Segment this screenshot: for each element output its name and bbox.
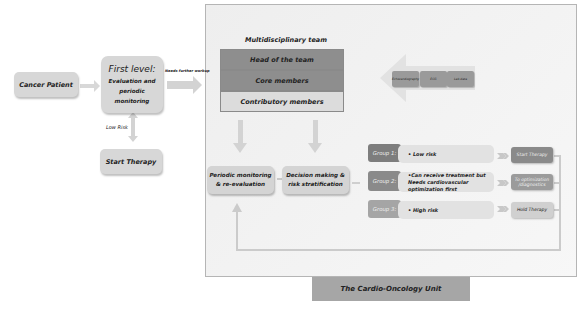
test-echocardiography: Echocardiography bbox=[392, 71, 419, 87]
group-2-outcome: To optimization /diagnostics bbox=[511, 174, 553, 190]
group-2-description: •Can receive treatment but Needs cardiov… bbox=[398, 172, 494, 192]
group-1-outcome: Start Therapy bbox=[511, 147, 553, 163]
team-row-contributory: Contributory members bbox=[220, 91, 344, 112]
group-1-tag: Group 1: bbox=[368, 144, 401, 162]
group-3-description: • High risk bbox=[398, 201, 494, 219]
first-level-subtitle: Evaluation and periodic monitoring bbox=[104, 76, 160, 106]
group-1-outcome-label: Start Therapy bbox=[517, 152, 548, 158]
team-row-head-label: Head of the team bbox=[250, 56, 314, 64]
start-therapy-box: Start Therapy bbox=[100, 149, 162, 174]
arrow-team-down-left bbox=[233, 120, 247, 153]
test-lab-data: Lab data bbox=[447, 71, 474, 87]
group-2-outcome-label: To optimization /diagnostics bbox=[511, 177, 553, 188]
test-ecg-label: ECG bbox=[430, 77, 436, 81]
team-title: Multidisciplinary team bbox=[245, 36, 365, 44]
decision-making-label: Decision making & risk stratification bbox=[282, 171, 349, 189]
team-row-core-label: Core members bbox=[255, 77, 308, 85]
test-ecg: ECG bbox=[420, 71, 447, 87]
low-risk-label: Low Risk bbox=[106, 124, 128, 130]
group-3-outcome-label: Hold Therapy bbox=[517, 207, 547, 213]
arrow-patient-to-first-level bbox=[80, 80, 100, 92]
arrow-needs-workup bbox=[167, 76, 202, 94]
decision-making-box: Decision making & risk stratification bbox=[282, 166, 349, 194]
chevrons bbox=[497, 153, 509, 212]
footer-title: The Cardio-Oncology Unit bbox=[341, 285, 442, 293]
periodic-monitoring-box: Periodic monitoring & re-evaluation bbox=[207, 166, 274, 194]
group-3-outcome: Hold Therapy bbox=[511, 202, 553, 218]
first-level-box: First level: Evaluation and periodic mon… bbox=[101, 56, 163, 113]
cardio-oncology-unit-label: The Cardio-Oncology Unit bbox=[312, 277, 470, 301]
group-2-description-label: •Can receive treatment but Needs cardiov… bbox=[408, 172, 494, 193]
team-row-contributory-label: Contributory members bbox=[240, 98, 323, 106]
periodic-monitoring-label: Periodic monitoring & re-evaluation bbox=[207, 171, 274, 189]
arrow-low-risk bbox=[128, 112, 138, 142]
group-3-tag-label: Group 3: bbox=[373, 206, 397, 212]
test-lab-data-label: Lab data bbox=[454, 77, 467, 81]
start-therapy-label: Start Therapy bbox=[106, 158, 157, 166]
team-row-head: Head of the team bbox=[220, 49, 344, 70]
first-level-title: First level: bbox=[109, 64, 156, 74]
group-3-description-label: • High risk bbox=[408, 207, 438, 214]
group-3-tag: Group 3: bbox=[368, 200, 401, 218]
arrow-team-down-right bbox=[308, 120, 322, 153]
group-1-description: • Low risk bbox=[398, 145, 494, 163]
group-1-description-label: • Low risk bbox=[408, 151, 436, 158]
cancer-patient-box: Cancer Patient bbox=[14, 72, 78, 97]
test-echocardiography-label: Echocardiography bbox=[392, 77, 419, 81]
connectors-layer bbox=[0, 0, 586, 309]
cancer-patient-label: Cancer Patient bbox=[19, 81, 73, 89]
team-row-core: Core members bbox=[220, 70, 344, 91]
group-2-tag: Group 2: bbox=[368, 171, 401, 191]
group-1-tag-label: Group 1: bbox=[373, 150, 397, 156]
group-2-tag-label: Group 2: bbox=[373, 178, 397, 184]
needs-further-workup-label: Needs further workup bbox=[165, 69, 210, 73]
